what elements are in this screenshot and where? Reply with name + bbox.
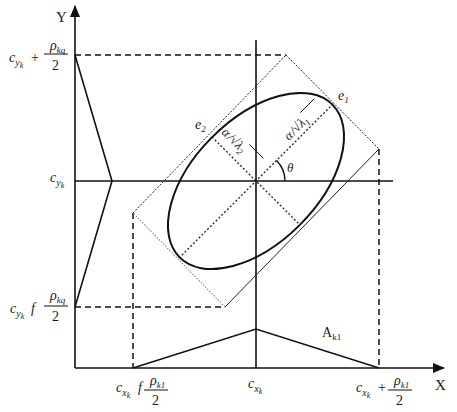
svg-text:cyk: cyk [10,301,25,321]
svg-text:+: + [31,50,39,65]
y-tick-bottom-label: cyk f ρkq 2 [10,288,68,324]
svg-text:α/√λ1: α/√λ1 [281,112,313,144]
svg-text:ρk1: ρk1 [393,373,409,390]
y-tick-mid-label: cyk [50,170,65,190]
svg-text:cyk: cyk [9,50,24,70]
svg-text:2: 2 [152,393,159,408]
svg-text:ρkq: ρkq [49,38,66,55]
svg-text:f: f [138,380,144,395]
rect-edge-top-right [286,55,379,149]
svg-text:cxk: cxk [248,376,263,396]
svg-text:cyk: cyk [50,170,65,190]
svg-text:ρk1: ρk1 [149,373,165,390]
x-axis-label: X [435,377,446,393]
svg-text:+: + [378,380,386,395]
theta-arc [277,161,286,182]
rect-edge-right-bottom [225,149,379,307]
svg-text:cxk: cxk [356,380,371,400]
area-label: Ak1 [322,325,341,342]
rect-edge-bottom-left [133,213,225,307]
x-tick-left-label: cxk f ρk1 2 [116,373,168,408]
theta-label: θ [287,160,294,175]
e2-label: e2 [195,117,206,134]
svg-text:2: 2 [396,393,403,408]
e1-label: e1 [338,88,349,105]
svg-text:ρkq: ρkq [49,288,66,305]
svg-text:2: 2 [52,309,59,324]
svg-text:α/√λ2: α/√λ2 [217,125,250,158]
svg-text:2: 2 [52,58,59,73]
x-tick-right-label: cxk + ρk1 2 [356,373,412,408]
svg-text:cxk: cxk [116,380,131,400]
major-axis-label: α/√λ1 [281,99,327,145]
y-axis-label: Y [56,9,67,25]
x-tick-mid-label: cxk [248,376,263,396]
y-tick-top-label: cyk + ρkq 2 [9,38,68,73]
svg-text:f: f [31,301,37,316]
ellipse-projection-diagram: Y X cyk + ρkq 2 cyk cyk f ρkq 2 cxk [0,0,457,412]
rect-edge-left-top [133,55,286,213]
